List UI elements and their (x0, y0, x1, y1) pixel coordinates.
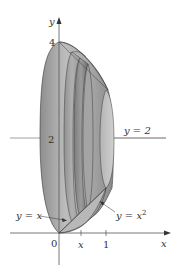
right-cap-surface (100, 90, 114, 188)
label-y-equals-x-squared-exp: 2 (142, 209, 146, 217)
y-axis-label: y (48, 16, 55, 27)
label-y-equals-x: y = x (15, 210, 42, 221)
label-y-equals-2-text: y = 2 (123, 125, 151, 136)
leader-y-equals-x-squared (102, 203, 115, 212)
x-axis-arrow-icon (164, 231, 171, 236)
x-tick-label-1: 1 (103, 239, 109, 250)
label-y-equals-2: y = 2 (123, 125, 151, 136)
y-tick-label-4: 4 (49, 37, 55, 48)
y-tick-label-2: 2 (48, 134, 54, 145)
y-axis-arrow-icon (57, 17, 62, 24)
x-axis-label: x (161, 238, 167, 249)
label-y-equals-x-squared-base: y = x (115, 210, 142, 221)
x-tick-label-x: x (78, 239, 84, 250)
solid-of-revolution-diagram: y 4 2 0 x 1 x y = 2 y = x y = x2 (0, 0, 183, 275)
label-y-equals-x-squared: y = x2 (115, 209, 147, 221)
origin-label: 0 (51, 238, 57, 249)
label-y-equals-x-text: y = x (15, 210, 42, 221)
